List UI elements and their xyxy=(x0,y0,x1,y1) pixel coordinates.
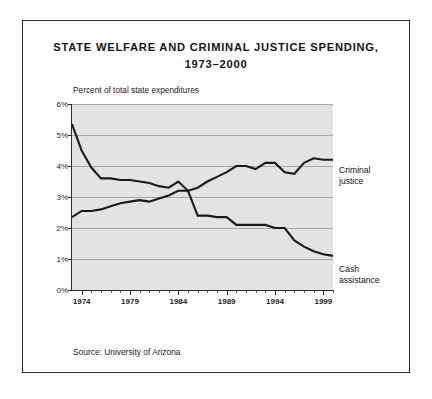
series-label-cash-assistance: Cash assistance xyxy=(339,264,380,286)
y-tick-mark xyxy=(68,290,72,291)
x-minor-tick xyxy=(140,290,141,293)
y-tick-label: 5% xyxy=(56,131,68,140)
x-minor-tick xyxy=(304,290,305,293)
x-tick-label: 1989 xyxy=(218,297,236,306)
x-minor-tick xyxy=(333,290,334,293)
x-minor-tick xyxy=(236,290,237,293)
chart-title: STATE WELFARE AND CRIMINAL JUSTICE SPEND… xyxy=(23,39,409,73)
y-axis-title: Percent of total state expenditures xyxy=(73,85,199,95)
x-minor-tick xyxy=(265,290,266,293)
x-minor-tick xyxy=(188,290,189,293)
source-note: Source: University of Arizona xyxy=(73,347,181,357)
x-minor-tick xyxy=(169,290,170,293)
data-series-group xyxy=(72,104,333,290)
x-major-tick xyxy=(323,290,324,295)
x-minor-tick xyxy=(285,290,286,293)
x-minor-tick xyxy=(120,290,121,293)
y-tick-label: 2% xyxy=(56,224,68,233)
chart-figure-frame: STATE WELFARE AND CRIMINAL JUSTICE SPEND… xyxy=(22,20,410,373)
series-label-cash-assistance-line2: assistance xyxy=(339,275,380,286)
chart-title-line2: 1973–2000 xyxy=(23,56,409,73)
x-major-tick xyxy=(82,290,83,295)
x-minor-tick xyxy=(198,290,199,293)
x-minor-tick xyxy=(149,290,150,293)
y-tick-label: 6% xyxy=(56,100,68,109)
y-tick-label: 3% xyxy=(56,193,68,202)
series-label-criminal-justice: Criminal justice xyxy=(339,165,371,187)
series-label-criminal-justice-line1: Criminal xyxy=(339,165,371,176)
x-major-tick xyxy=(275,290,276,295)
x-major-tick xyxy=(178,290,179,295)
x-minor-tick xyxy=(314,290,315,293)
x-tick-label: 1984 xyxy=(169,297,187,306)
x-tick-label: 1994 xyxy=(266,297,284,306)
x-minor-tick xyxy=(217,290,218,293)
chart-title-line1: STATE WELFARE AND CRIMINAL JUSTICE SPEND… xyxy=(53,41,378,53)
y-tick-label: 0% xyxy=(56,286,68,295)
x-major-tick xyxy=(130,290,131,295)
x-minor-tick xyxy=(111,290,112,293)
x-tick-label: 1999 xyxy=(314,297,332,306)
series-label-cash-assistance-line1: Cash xyxy=(339,264,380,275)
x-minor-tick xyxy=(256,290,257,293)
x-minor-tick xyxy=(294,290,295,293)
y-tick-label: 1% xyxy=(56,255,68,264)
series-line-cash-assistance xyxy=(72,124,333,256)
x-major-tick xyxy=(227,290,228,295)
x-minor-tick xyxy=(246,290,247,293)
series-label-criminal-justice-line2: justice xyxy=(339,176,371,187)
plot-area-wrapper: 0%1%2%3%4%5%6% 197419791984198919941999 xyxy=(72,104,333,290)
x-minor-tick xyxy=(159,290,160,293)
y-tick-label: 4% xyxy=(56,162,68,171)
series-line-criminal-justice xyxy=(72,158,333,217)
x-tick-label: 1974 xyxy=(73,297,91,306)
x-tick-label: 1979 xyxy=(121,297,139,306)
x-minor-tick xyxy=(91,290,92,293)
x-minor-tick xyxy=(101,290,102,293)
x-minor-tick xyxy=(207,290,208,293)
